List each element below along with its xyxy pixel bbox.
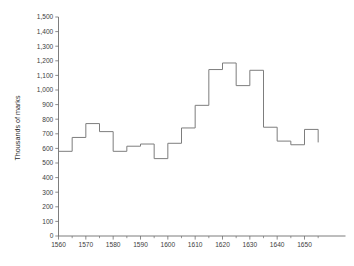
x-axis-tick-label: 1570: [78, 241, 93, 248]
y-axis-tick-label: 500: [42, 159, 53, 166]
y-axis-tick-label: 300: [42, 189, 53, 196]
x-axis-tick-label: 1590: [133, 241, 148, 248]
y-axis-tick-label: 400: [42, 174, 53, 181]
x-axis-tick-label: 1640: [270, 241, 285, 248]
y-axis-tick-label: 1,200: [37, 57, 54, 64]
y-axis-tick-label: 1,100: [37, 72, 54, 79]
x-axis-tick-label: 1630: [242, 241, 257, 248]
y-axis-tick-label: 100: [42, 218, 53, 225]
x-axis-tick-label: 1600: [160, 241, 175, 248]
line-chart: 01002003004005006007008009001,0001,1001,…: [0, 0, 354, 266]
y-axis-tick-label: 900: [42, 101, 53, 108]
x-axis-tick-label: 1620: [215, 241, 230, 248]
y-axis-tick-label: 1,500: [37, 13, 54, 20]
y-axis-tick-label: 0: [50, 232, 54, 239]
y-axis-tick-label: 1,400: [37, 28, 54, 35]
y-axis-title: Thousands of marks: [13, 95, 22, 161]
y-axis-tick-label: 600: [42, 145, 53, 152]
y-axis-tick-label: 700: [42, 130, 53, 137]
x-axis-tick-label: 1560: [51, 241, 66, 248]
x-axis-tick-label: 1580: [106, 241, 121, 248]
y-axis-tick-label: 200: [42, 203, 53, 210]
y-axis-tick-label: 1,300: [37, 43, 54, 50]
chart-container: 01002003004005006007008009001,0001,1001,…: [0, 0, 354, 266]
x-axis-tick-label: 1610: [188, 241, 203, 248]
y-axis-tick-label: 1,000: [37, 86, 54, 93]
x-axis-tick-label: 1650: [297, 241, 312, 248]
y-axis-tick-label: 800: [42, 116, 53, 123]
